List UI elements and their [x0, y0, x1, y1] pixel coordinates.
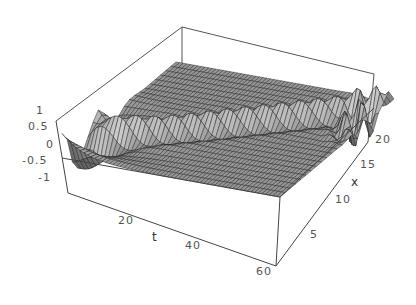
- x-tick-label: 10: [335, 193, 351, 206]
- z-tick-label: -1: [38, 171, 51, 184]
- x-axis-label: x: [351, 175, 358, 189]
- x-tick-label: 5: [310, 228, 318, 241]
- z-tick-label: 0: [46, 138, 54, 151]
- t-tick-label: 60: [256, 265, 272, 278]
- z-tick-label: 1: [36, 104, 44, 117]
- surface-plot: [0, 0, 416, 305]
- t-axis-label: t: [152, 230, 157, 244]
- z-tick-label: -0.5: [22, 154, 47, 167]
- t-tick-label: 20: [118, 214, 134, 227]
- z-tick-label: 0.5: [28, 120, 49, 133]
- x-tick-label: 15: [360, 158, 376, 171]
- t-tick-label: 40: [185, 239, 201, 252]
- x-tick-label: 20: [375, 133, 391, 146]
- surface-mesh: [62, 62, 394, 197]
